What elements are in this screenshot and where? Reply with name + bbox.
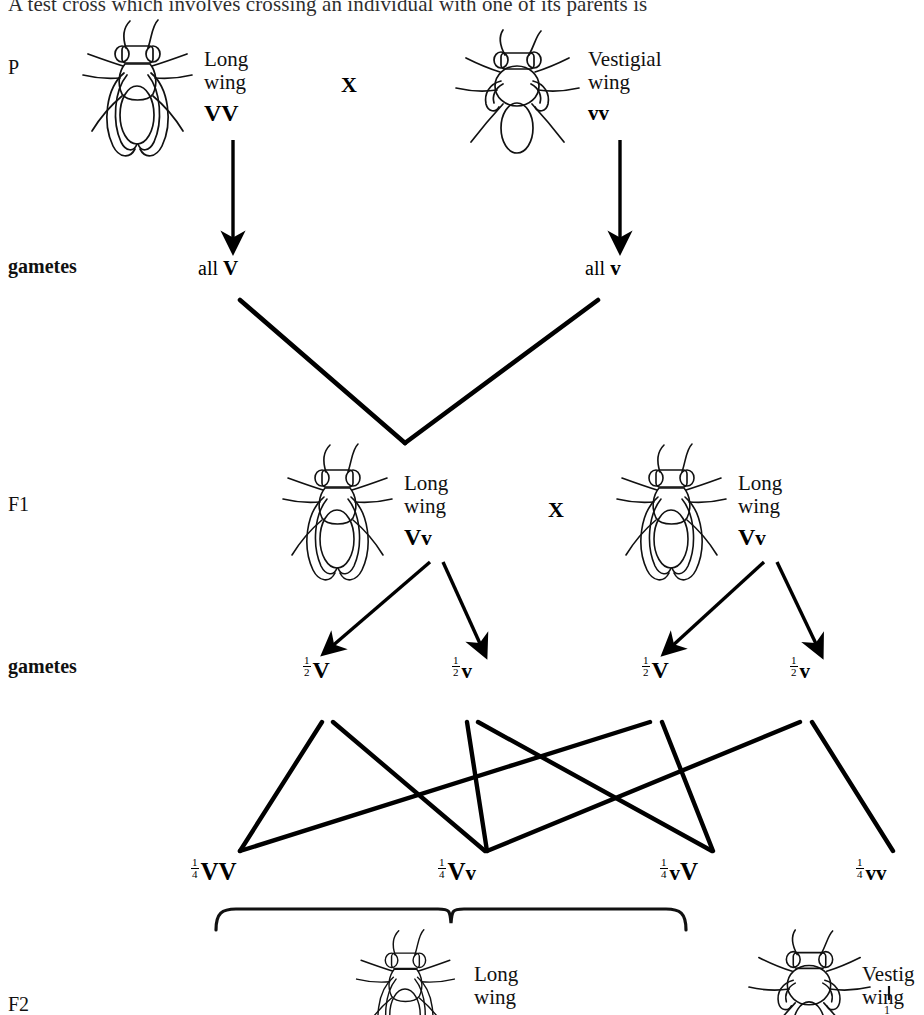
f2-genotype-2-allele-1: V	[448, 858, 466, 885]
line-gamete2-to-f2-3	[478, 722, 712, 851]
p-cross-symbol: X	[341, 72, 357, 98]
p-gamete-right-quantifier: all	[585, 257, 605, 279]
f2-right-phenotype-line2: wing	[862, 985, 904, 1009]
f2-genotype-3: 14vV	[660, 857, 698, 886]
p-left-phenotype-line1: Long	[204, 47, 248, 71]
p-left-genotype: VV	[204, 100, 239, 127]
line-gamete4-to-f2-2	[487, 722, 800, 851]
p-gamete-right-allele: v	[610, 256, 621, 280]
f1-right-genotype: Vv	[738, 524, 766, 551]
line-gamete3-to-f2-3b	[662, 722, 713, 851]
f1-right-phenotype: Long wing	[738, 472, 782, 518]
line-gamete1-to-f2-1	[240, 722, 322, 851]
fly-long-wing-f1-right	[596, 442, 746, 587]
f1-right-allele-1: V	[738, 524, 755, 550]
f2-left-phenotype-line2: wing	[474, 985, 516, 1009]
f2-genotype-3-allele-2: V	[680, 858, 698, 885]
arrow-f1-left-to-gamete-2	[443, 562, 482, 648]
p-right-allele-1: v	[588, 101, 599, 125]
f1-gamete-3: 12V	[642, 655, 669, 684]
fraction-one-half: 12	[452, 655, 460, 678]
f2-genotype-1: 14VV	[191, 857, 237, 886]
p-left-allele-2: V	[221, 100, 238, 126]
p-gamete-right: all v	[585, 256, 621, 281]
fly-long-wing-f2	[330, 928, 480, 1015]
stage-label-f1: F1	[8, 493, 29, 516]
line-gamete3-to-f2-1	[240, 722, 650, 851]
top-sentence-text: A test cross which involves crossing an …	[8, 0, 924, 15]
f1-left-allele-2: v	[421, 526, 432, 550]
f1-gamete-2: 12v	[452, 655, 472, 684]
fraction-one-half: 12	[303, 655, 311, 678]
f1-left-phenotype-line1: Long	[404, 471, 448, 495]
f1-left-phenotype-line2: wing	[404, 494, 446, 518]
f2-genotype-1-allele-1: V	[201, 858, 219, 885]
p-right-genotype: vv	[588, 100, 609, 126]
f2-genotype-1-allele-2: V	[219, 858, 237, 885]
f1-right-phenotype-line1: Long	[738, 471, 782, 495]
fraction-one-quarter: 14	[191, 857, 199, 880]
f2-genotype-4-allele-2: v	[876, 861, 887, 885]
f1-gamete-1: 12V	[303, 655, 330, 684]
p-left-allele-1: V	[204, 100, 221, 126]
line-gamete4-to-f2-4	[812, 722, 893, 851]
fly-vestigial-wing-p-right	[443, 28, 593, 160]
p-gamete-left-allele: V	[223, 256, 238, 280]
genetics-cross-diagram: A test cross which involves crossing an …	[0, 0, 924, 1015]
p-right-phenotype-line1: Vestigial	[588, 47, 662, 71]
p-left-phenotype: Long wing	[204, 48, 248, 94]
p-gamete-left-quantifier: all	[198, 257, 218, 279]
p-left-phenotype-line2: wing	[204, 70, 246, 94]
f2-genotype-4-allele-1: v	[866, 861, 877, 885]
f2-genotype-3-allele-1: v	[670, 861, 681, 885]
f1-right-allele-2: v	[755, 526, 766, 550]
p-right-allele-2: v	[599, 101, 610, 125]
f1-gamete-4: 12v	[790, 655, 810, 684]
stage-label-p: P	[8, 56, 19, 79]
fly-long-wing-f1-left	[262, 442, 412, 587]
f2-genotype-2: 14Vv	[438, 857, 476, 886]
fraction-one-half: 12	[642, 655, 650, 678]
f1-left-genotype: Vv	[404, 524, 432, 551]
f1-right-phenotype-line2: wing	[738, 494, 780, 518]
fraction-one-quarter: 14	[660, 857, 668, 880]
f1-gamete-1-allele: V	[313, 657, 330, 683]
p-right-phenotype: Vestigial wing	[588, 48, 662, 94]
f2-brace-long-wing	[216, 909, 686, 930]
f2-left-phenotype-line1: Long	[474, 962, 518, 986]
f2-genotype-2-allele-2: v	[466, 861, 477, 885]
fraction-one-quarter: 14	[438, 857, 446, 880]
f1-cross-symbol: X	[548, 497, 564, 523]
line-gamete-right-to-f1	[405, 300, 598, 443]
stage-label-gametes-2: gametes	[8, 655, 77, 678]
fly-long-wing-p-left	[62, 18, 212, 163]
fraction-one-quarter: 14	[856, 857, 864, 880]
fraction-one-half: 12	[790, 655, 798, 678]
stage-label-gametes-1: gametes	[8, 255, 77, 278]
line-gamete2-to-f2-2b	[467, 722, 487, 851]
f2-right-fraction-numerator: 1	[884, 1003, 890, 1015]
f1-left-allele-1: V	[404, 524, 421, 550]
line-gamete1-to-f2-2	[333, 722, 485, 851]
p-right-phenotype-line2: wing	[588, 70, 630, 94]
f1-left-phenotype: Long wing	[404, 472, 448, 518]
arrow-f1-right-to-gamete-4	[777, 562, 818, 648]
f1-gamete-2-allele: v	[462, 659, 473, 683]
f2-left-phenotype: Long wing	[474, 963, 518, 1009]
line-gamete-left-to-f1	[240, 300, 405, 443]
f2-genotype-4: 14vv	[856, 857, 887, 886]
f1-gamete-4-allele: v	[800, 659, 811, 683]
stage-label-f2: F2	[8, 993, 29, 1015]
p-gamete-left: all V	[198, 256, 238, 281]
f2-right-phenotype-line1: Vestig	[862, 962, 915, 986]
f1-gamete-3-allele: V	[652, 657, 669, 683]
